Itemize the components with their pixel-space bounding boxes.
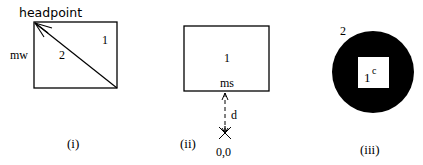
panel-ii: 1 ms d 0,0 (ii): [180, 26, 269, 159]
origin-label: 0,0: [216, 145, 231, 159]
caption-i: (i): [67, 136, 79, 151]
inner-label-1: 1: [364, 70, 371, 85]
inner-label-superscript-c: c: [372, 65, 377, 76]
panel-iii: 2 1 c (iii): [332, 24, 414, 157]
caption-iii: (iii): [360, 142, 380, 157]
region-label-2: 2: [59, 48, 65, 62]
distance-label-d: d: [231, 108, 237, 122]
headpoint-label: headpoint: [19, 5, 82, 20]
outer-label-2: 2: [340, 24, 346, 38]
panel-i: headpoint mw 1 2 (i): [10, 5, 117, 151]
diagram-canvas: headpoint mw 1 2 (i) 1 ms d 0,0 (ii) 2 1…: [0, 0, 423, 165]
region-label-1: 1: [224, 51, 230, 65]
side-label-mw: mw: [10, 48, 28, 62]
anchor-label-ms: ms: [220, 76, 234, 90]
caption-ii: (ii): [180, 136, 196, 151]
origin-cross-icon: [219, 126, 231, 139]
region-label-1: 1: [102, 33, 108, 47]
